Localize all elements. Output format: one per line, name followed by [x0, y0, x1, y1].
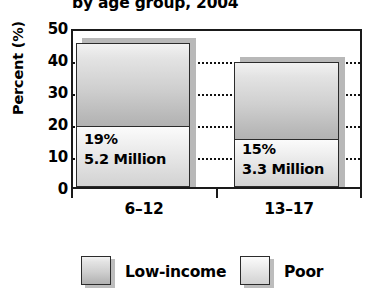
y-tick-label-50: 50 — [32, 20, 68, 38]
bar-label-count-13-17: 3.3 Million — [242, 161, 324, 177]
x-tick-left — [71, 189, 73, 198]
bar-label-count-6-12: 5.2 Million — [84, 151, 166, 167]
y-tick-label-0: 0 — [32, 180, 68, 198]
chart-legend: Low-income Poor — [0, 254, 368, 299]
chart-title: by age group, 2004 — [72, 0, 362, 12]
bar-label-percent-6-12: 19% — [84, 131, 118, 147]
legend-swatch-low-income-icon — [81, 256, 111, 285]
bar-segment-poor-6-12[interactable]: 19% 5.2 Million — [76, 126, 190, 187]
bar-label-percent-13-17: 15% — [242, 141, 276, 157]
y-tick-label-10: 10 — [32, 148, 68, 166]
legend-item-low-income[interactable]: Low-income — [81, 256, 226, 288]
x-axis-label-13-17: 13–17 — [216, 200, 362, 218]
bar-group-13-17[interactable]: 15% 3.3 Million — [234, 62, 344, 187]
bar-group-6-12[interactable]: 19% 5.2 Million — [76, 43, 196, 187]
x-tick-right — [360, 189, 362, 198]
legend-swatch-low-income-wrap — [81, 256, 115, 288]
legend-item-poor[interactable]: Poor — [240, 256, 323, 288]
plot-area: 19% 5.2 Million 15% 3.3 Million — [71, 29, 362, 189]
bar-segment-low-income-13-17[interactable] — [234, 62, 339, 140]
chart-container: by age group, 2004 Percent (%) 50 40 30 … — [0, 0, 368, 299]
legend-label-poor: Poor — [284, 263, 323, 281]
bar-segment-poor-13-17[interactable]: 15% 3.3 Million — [234, 139, 339, 187]
x-axis-label-6-12: 6–12 — [71, 200, 217, 218]
y-tick-label-40: 40 — [32, 52, 68, 70]
x-tick-middle — [216, 189, 218, 198]
y-tick-label-30: 30 — [32, 84, 68, 102]
legend-swatch-poor-icon — [240, 256, 270, 285]
legend-label-low-income: Low-income — [125, 263, 226, 281]
bar-segment-low-income-6-12[interactable] — [76, 43, 190, 127]
legend-swatch-poor-wrap — [240, 256, 274, 288]
y-tick-label-20: 20 — [32, 116, 68, 134]
